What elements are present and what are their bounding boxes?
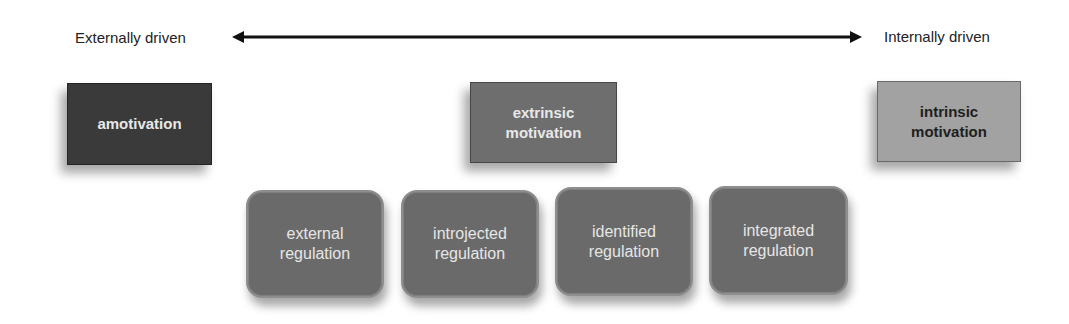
double-arrow-icon bbox=[232, 30, 862, 44]
identified-regulation-box: identified regulation bbox=[555, 187, 693, 296]
intrinsic-label-line1: intrinsic bbox=[911, 102, 987, 122]
amotivation-box: amotivation bbox=[67, 83, 212, 165]
amotivation-label: amotivation bbox=[97, 114, 181, 134]
external-regulation-line2: regulation bbox=[280, 244, 350, 264]
introjected-regulation-box: introjected regulation bbox=[401, 190, 539, 298]
externally-driven-label: Externally driven bbox=[75, 29, 186, 47]
integrated-regulation-box: integrated regulation bbox=[709, 186, 848, 295]
introjected-regulation-line2: regulation bbox=[433, 244, 507, 264]
identified-regulation-line2: regulation bbox=[589, 242, 659, 262]
external-regulation-line1: external bbox=[280, 224, 350, 244]
intrinsic-motivation-box: intrinsic motivation bbox=[877, 81, 1021, 162]
external-regulation-box: external regulation bbox=[246, 190, 384, 298]
intrinsic-label-line2: motivation bbox=[911, 122, 987, 142]
integrated-regulation-line2: regulation bbox=[743, 241, 814, 261]
introjected-regulation-line1: introjected bbox=[433, 224, 507, 244]
internally-driven-label: Internally driven bbox=[884, 28, 990, 46]
extrinsic-motivation-box: extrinsic motivation bbox=[470, 82, 617, 163]
identified-regulation-line1: identified bbox=[589, 222, 659, 242]
extrinsic-label-line2: motivation bbox=[506, 123, 582, 143]
integrated-regulation-line1: integrated bbox=[743, 221, 814, 241]
extrinsic-label-line1: extrinsic bbox=[506, 103, 582, 123]
